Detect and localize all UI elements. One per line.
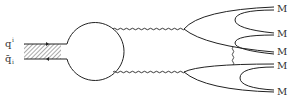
svg-text:i: i <box>12 36 14 43</box>
feynman-diagram: q i q̄ i M M M M M <box>0 0 297 101</box>
gluon-line-bottom <box>113 71 185 73</box>
svg-text:i: i <box>12 58 14 65</box>
lower-fragmentation <box>184 64 274 92</box>
svg-text:q̄: q̄ <box>5 53 12 64</box>
meson-label: M <box>277 28 287 39</box>
antiquark-label: q̄ i <box>5 53 14 65</box>
meson-label: M <box>277 60 287 71</box>
hatched-bound-state <box>24 44 61 59</box>
gluon-exchange-vertical <box>232 47 234 65</box>
gluon-line-top <box>113 28 185 30</box>
meson-label: M <box>277 3 287 14</box>
svg-text:q: q <box>5 38 12 49</box>
quark-label: q i <box>5 36 14 49</box>
upper-fragmentation <box>184 7 274 54</box>
meson-label: M <box>277 46 287 57</box>
meson-label: M <box>277 86 287 97</box>
